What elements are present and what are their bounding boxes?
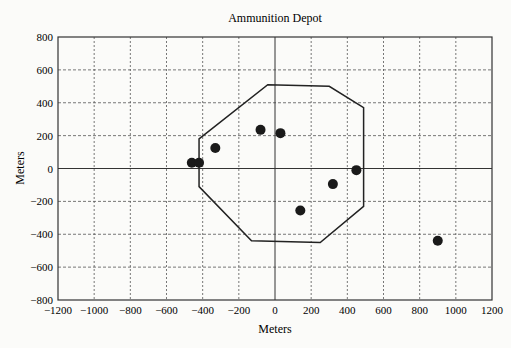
chart-title: Ammunition Depot [228,11,322,25]
data-point [433,236,443,246]
x-tick-label: −1000 [80,304,109,316]
x-tick-label: −800 [119,304,142,316]
y-tick-label: 400 [37,97,54,109]
y-tick-label: 0 [48,163,54,175]
y-tick-label: −800 [30,294,53,306]
data-point [194,158,204,168]
data-point [210,143,220,153]
y-axis-label: Meters [13,151,27,185]
x-tick-label: 1000 [445,304,468,316]
x-tick-label: 800 [411,304,428,316]
y-tick-label: −400 [30,228,53,240]
y-tick-label: 200 [37,130,54,142]
x-tick-label: −200 [227,304,250,316]
x-tick-label: 600 [375,304,392,316]
data-point [256,125,266,135]
x-tick-label: 1200 [481,304,504,316]
data-point [275,128,285,138]
y-tick-label: 800 [37,31,54,43]
x-tick-labels: −1200−1000−800−600−400−20002004006008001… [44,304,504,316]
x-tick-label: −400 [191,304,214,316]
data-point [295,205,305,215]
data-points [187,125,443,246]
x-tick-label: 200 [303,304,320,316]
y-tick-label: −600 [30,261,53,273]
depot-boundary-polygon [199,85,364,243]
x-tick-label: 0 [272,304,278,316]
data-point [351,165,361,175]
data-point [328,179,338,189]
y-tick-label: −200 [30,195,53,207]
scatter-chart: Ammunition Depot −1200−1000−800−600−400−… [0,0,511,348]
y-tick-labels: −800−600−400−2000200400600800 [30,31,53,306]
x-tick-label: 400 [339,304,356,316]
y-tick-label: 600 [37,64,54,76]
zero-axes [58,37,492,300]
x-tick-label: −600 [155,304,178,316]
x-axis-label: Meters [258,322,292,336]
